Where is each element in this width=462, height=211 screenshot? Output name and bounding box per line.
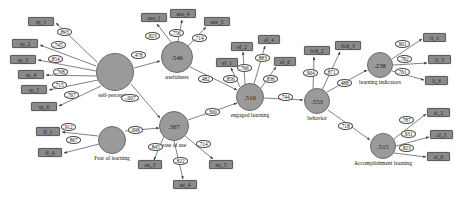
- coefficient-c-eu5: .714: [196, 140, 211, 148]
- latent-label-engaged-learning: engaged learning: [231, 112, 269, 118]
- indicator-sp_1[interactable]: sp_1: [28, 17, 54, 26]
- coefficient-c-bh-li: .488: [337, 79, 352, 87]
- coefficient-c-sp-use: .478: [131, 51, 146, 59]
- latent-label-accomplishment-learning: Accomplishment learning: [354, 160, 412, 166]
- coefficient-c-sp6: .767: [64, 91, 79, 99]
- latent-label-usefulness: usefulness: [165, 74, 188, 80]
- latent-node-accomplishment-learning[interactable]: .515: [370, 133, 396, 159]
- coefficient-c-li3: .782: [397, 55, 412, 63]
- coefficient-c-sp4: .768: [53, 68, 68, 76]
- coefficient-c-ef2: .766: [237, 64, 252, 72]
- latent-r2-value: .546: [171, 54, 183, 61]
- latent-r2-value: .238: [374, 62, 386, 69]
- latent-node-behavior[interactable]: .553: [304, 88, 330, 114]
- indicator-eu_3[interactable]: eu_3: [138, 160, 162, 169]
- coefficient-c-eu-el: .300: [205, 108, 220, 116]
- latent-node-self-perception[interactable]: [96, 53, 134, 91]
- indicator-eu_4[interactable]: eu_4: [173, 180, 197, 189]
- coefficient-c-use-el: .482: [198, 75, 213, 83]
- indicator-li_6[interactable]: li_6: [425, 76, 448, 85]
- coefficient-c-use4: .756: [169, 29, 184, 37]
- indicator-sp_3[interactable]: sp_3: [10, 55, 36, 64]
- latent-label-ease-of-use: ease of use: [162, 142, 187, 148]
- latent-label-fear-of-learning: Fear of learning: [94, 155, 130, 161]
- indicator-al_3[interactable]: al_3: [430, 130, 453, 139]
- latent-label-learning-indicators: learning indicators: [359, 79, 401, 85]
- indicator-eu_5[interactable]: eu_5: [209, 160, 233, 169]
- latent-node-usefulness[interactable]: .546: [161, 41, 193, 73]
- latent-node-fear-of-learning[interactable]: [98, 126, 126, 154]
- coefficient-c-al3: .931: [401, 130, 416, 138]
- coefficient-c-bch2: .904: [303, 69, 318, 77]
- indicator-li_3[interactable]: li_3: [428, 55, 451, 64]
- coefficient-c-li1: .901: [395, 40, 410, 48]
- indicator-sp_2[interactable]: sp_2: [12, 39, 38, 48]
- indicator-use_5[interactable]: use_5: [204, 17, 230, 26]
- latent-node-engaged-learning[interactable]: .516: [236, 83, 264, 111]
- indicator-bch_3[interactable]: bch_3: [335, 41, 361, 50]
- coefficient-c-ef1: .856: [223, 75, 238, 83]
- coefficient-c-use1: .823: [145, 32, 160, 40]
- coefficient-c-el-bh: .744: [278, 93, 293, 101]
- coefficient-c-al6: .823: [399, 144, 414, 152]
- indicator-al_6[interactable]: al_6: [427, 152, 450, 161]
- indicator-use_4[interactable]: use_4: [170, 9, 196, 18]
- indicator-ef_1[interactable]: ef_1: [216, 58, 238, 67]
- coefficient-c-sp-eu: -.007: [121, 94, 139, 102]
- coefficient-c-sp5: .715: [52, 81, 67, 89]
- indicator-fl_4[interactable]: fl_4: [38, 148, 62, 157]
- coefficient-c-bch3: .871: [324, 68, 339, 76]
- latent-r2-value: .367: [168, 123, 180, 130]
- latent-r2-value: .516: [244, 94, 256, 101]
- coefficient-c-sp3: .854: [48, 55, 63, 63]
- coefficient-c-ef4: .883: [255, 54, 270, 62]
- coefficient-c-fl1: .912: [61, 123, 76, 131]
- coefficient-c-eu4: .822: [173, 157, 188, 165]
- coefficient-c-fl-eu: .098: [128, 126, 143, 134]
- coefficient-c-ef6: .836: [263, 75, 278, 83]
- coefficient-c-fl4: .867: [66, 136, 81, 144]
- latent-label-behavior: behavior: [307, 115, 327, 121]
- coefficient-c-sp1: .893: [57, 28, 72, 36]
- indicator-fl_1[interactable]: fl_1: [36, 127, 60, 136]
- coefficient-c-use5: .714: [192, 34, 207, 42]
- coefficient-c-sp2: .745: [51, 41, 66, 49]
- indicator-ef_4[interactable]: ef_4: [258, 35, 280, 44]
- indicator-li_1[interactable]: li_1: [423, 33, 446, 42]
- latent-node-learning-indicators[interactable]: .238: [367, 52, 393, 78]
- indicator-ef_2[interactable]: ef_2: [231, 42, 253, 51]
- indicator-sp_4[interactable]: sp_4: [18, 70, 44, 79]
- coefficient-c-al2: .787: [399, 116, 414, 124]
- indicator-bch_2[interactable]: bch_2: [304, 46, 330, 55]
- indicator-sp_6[interactable]: sp_6: [31, 102, 57, 111]
- path-diagram-canvas: self-perceptionFear of learning.546usefu…: [0, 0, 462, 211]
- coefficient-c-li6: .761: [395, 68, 410, 76]
- indicator-al_2[interactable]: al_2: [427, 108, 450, 117]
- latent-node-ease-of-use[interactable]: .367: [159, 111, 189, 141]
- latent-r2-value: .553: [311, 98, 323, 105]
- indicator-use_1[interactable]: use_1: [141, 13, 167, 22]
- indicator-sp_5[interactable]: sp_5: [21, 85, 47, 94]
- indicator-ef_6[interactable]: ef_6: [274, 57, 296, 66]
- coefficient-c-bh-al: .718: [338, 122, 353, 130]
- latent-r2-value: .515: [377, 143, 389, 150]
- coefficient-c-eu3: .845: [148, 143, 163, 151]
